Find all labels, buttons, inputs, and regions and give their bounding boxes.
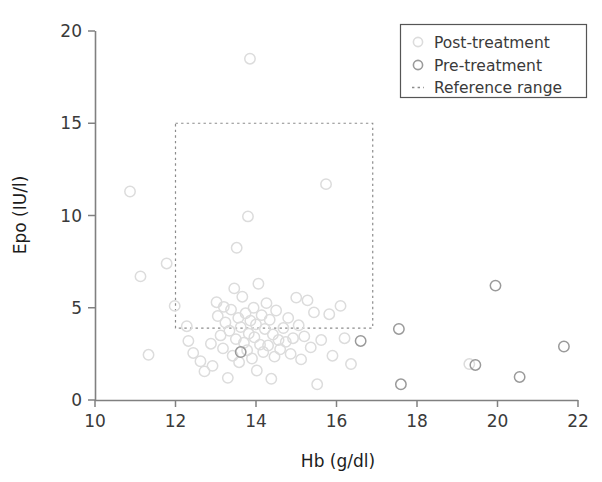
data-point — [394, 324, 404, 334]
data-point — [335, 301, 345, 311]
data-point — [324, 309, 334, 319]
data-point — [269, 351, 279, 361]
x-axis-title: Hb (g/dl) — [301, 451, 375, 471]
y-tick-label: 20 — [60, 21, 82, 41]
data-point — [218, 343, 228, 353]
data-point — [266, 374, 276, 384]
x-tick-label: 10 — [84, 411, 106, 431]
data-point — [182, 321, 192, 331]
data-point — [245, 53, 255, 63]
data-point — [559, 341, 569, 351]
data-point — [223, 373, 233, 383]
data-point — [169, 301, 179, 311]
data-point — [135, 271, 145, 281]
data-point — [264, 315, 274, 325]
data-point — [234, 357, 244, 367]
legend-label-reference-range: Reference range — [434, 79, 562, 97]
data-point — [143, 350, 153, 360]
data-point — [291, 292, 301, 302]
x-tick-label: 16 — [326, 411, 348, 431]
y-tick-label: 5 — [71, 298, 82, 318]
data-point — [306, 342, 316, 352]
scatter-plot-figure: 10121416182022 05101520 Hb (g/dl) Epo (I… — [0, 0, 602, 482]
data-point — [283, 313, 293, 323]
data-point — [293, 320, 303, 330]
y-tick-label: 0 — [71, 390, 82, 410]
legend-entry-reference-range[interactable]: Reference range — [412, 79, 562, 97]
data-point — [339, 333, 349, 343]
data-point — [247, 353, 257, 363]
data-point — [271, 305, 281, 315]
legend-label-pre-treatment: Pre-treatment — [434, 57, 542, 75]
data-point — [207, 361, 217, 371]
plot-canvas: 10121416182022 05101520 Hb (g/dl) Epo (I… — [0, 0, 602, 482]
data-point — [206, 339, 216, 349]
x-tick-label: 14 — [245, 411, 267, 431]
data-point — [161, 258, 171, 268]
data-point — [470, 360, 480, 370]
data-point — [125, 186, 135, 196]
data-point — [285, 349, 295, 359]
data-point — [327, 351, 337, 361]
data-point — [346, 359, 356, 369]
legend: Post-treatment Pre-treatment Reference r… — [401, 25, 587, 98]
x-axis-tick-labels: 10121416182022 — [84, 411, 589, 431]
data-point — [231, 243, 241, 253]
data-point — [252, 365, 262, 375]
legend-label-post-treatment: Post-treatment — [434, 34, 550, 52]
y-axis-tick-labels: 05101520 — [60, 21, 82, 410]
y-axis-ticks — [88, 31, 95, 400]
y-tick-label: 10 — [60, 206, 82, 226]
data-point — [237, 291, 247, 301]
data-point — [490, 280, 500, 290]
x-tick-label: 18 — [406, 411, 428, 431]
data-point — [309, 307, 319, 317]
x-tick-label: 12 — [165, 411, 187, 431]
y-axis-title: Epo (IU/l) — [10, 176, 30, 255]
data-point — [261, 298, 271, 308]
series-post-treatment-points — [125, 53, 475, 389]
data-point — [302, 295, 312, 305]
x-tick-label: 22 — [567, 411, 589, 431]
y-tick-label: 15 — [60, 113, 82, 133]
data-point — [355, 336, 365, 346]
data-point — [316, 335, 326, 345]
data-point — [296, 354, 306, 364]
series-pre-treatment-points — [236, 280, 570, 389]
data-point — [253, 279, 263, 289]
reference-range-box — [176, 123, 373, 328]
data-point — [321, 179, 331, 189]
data-point — [229, 283, 239, 293]
data-point — [195, 356, 205, 366]
data-point — [396, 379, 406, 389]
data-point — [312, 379, 322, 389]
data-point — [243, 211, 253, 221]
legend-entry-post-treatment[interactable]: Post-treatment — [413, 34, 549, 52]
data-point — [514, 372, 524, 382]
data-point — [183, 336, 193, 346]
x-tick-label: 20 — [487, 411, 509, 431]
data-point — [299, 331, 309, 341]
